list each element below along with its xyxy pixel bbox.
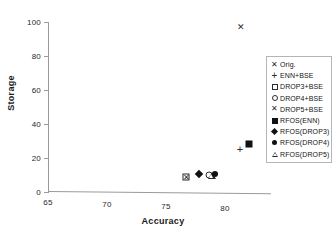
x-cross-icon: ✕ [269, 104, 280, 115]
y-tick-mark-80 [44, 56, 48, 57]
y-tick-mark-100 [44, 22, 48, 23]
y-tick-mark-20 [44, 158, 48, 159]
square-fill-icon [269, 115, 280, 126]
point-rfos-enn [246, 141, 253, 148]
legend-item-rfos-drop3: RFOS(DROP3) [269, 126, 330, 137]
y-axis-line [48, 22, 49, 193]
circle-fill-icon [269, 137, 280, 148]
x-tick-label-80: 80 [210, 204, 240, 213]
x-tick-label-75: 75 [151, 202, 181, 211]
legend-item-rfos-drop4: RFOS(DROP4) [269, 137, 330, 148]
legend-label-rfos-drop3: RFOS(DROP3) [280, 128, 329, 135]
y-axis-title: Storage [6, 58, 16, 128]
triangle-open-icon [269, 149, 280, 160]
y-tick-label-20: 20 [1, 154, 41, 163]
x-tick-label-70: 70 [92, 200, 122, 209]
x-axis-line [48, 191, 271, 194]
circle-open-icon [269, 93, 280, 104]
plus-icon: + [269, 70, 280, 81]
legend-item-enn-bse: + ENN+BSE [269, 70, 330, 81]
diamond-fill-icon [269, 126, 280, 137]
legend-label-enn-bse: ENN+BSE [280, 72, 314, 79]
y-tick-mark-60 [44, 90, 48, 91]
legend-item-drop5-bse: ✕ DROP5+BSE [269, 104, 330, 115]
legend: ✕ Orig. + ENN+BSE DROP3+BSE DROP4+BSE ✕ … [266, 56, 332, 163]
point-rfos-drop3 [195, 170, 203, 178]
x-thin-icon: ✕ [269, 59, 280, 70]
y-tick-mark-0 [44, 192, 48, 193]
x-tick-label-65: 65 [33, 198, 63, 207]
legend-item-rfos-drop5: RFOS(DROP5) [269, 149, 330, 160]
legend-label-rfos-enn: RFOS(ENN) [280, 117, 320, 124]
y-tick-label-0: 0 [1, 188, 41, 197]
legend-label-drop3-bse: DROP3+BSE [280, 83, 323, 90]
y-tick-label-100: 100 [1, 18, 41, 27]
legend-item-rfos-enn: RFOS(ENN) [269, 115, 330, 126]
legend-item-drop3-bse: DROP3+BSE [269, 81, 330, 92]
scatter-chart-figure: 100 80 60 40 20 0 65 70 75 80 Accuracy S… [0, 0, 335, 243]
legend-label-rfos-drop5: RFOS(DROP5) [280, 151, 329, 158]
square-open-icon [269, 81, 280, 92]
y-tick-mark-40 [44, 124, 48, 125]
point-enn-bse: + [237, 145, 243, 154]
legend-label-rfos-drop4: RFOS(DROP4) [280, 139, 329, 146]
point-orig: ✕ [237, 23, 245, 32]
legend-label-drop5-bse: DROP5+BSE [280, 106, 323, 113]
x-axis-title: Accuracy [108, 216, 218, 226]
legend-item-orig: ✕ Orig. [269, 59, 330, 70]
legend-item-drop4-bse: DROP4+BSE [269, 93, 330, 104]
point-drop5-bse: ✕ [183, 173, 190, 182]
legend-label-orig: Orig. [280, 61, 296, 68]
legend-label-drop4-bse: DROP4+BSE [280, 95, 323, 102]
